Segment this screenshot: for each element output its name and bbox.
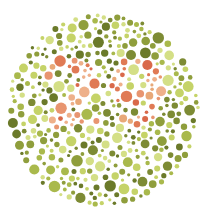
ground-dot xyxy=(121,197,128,204)
ground-dot xyxy=(164,97,170,103)
ground-dot xyxy=(102,23,110,31)
ground-dot xyxy=(86,14,91,19)
ground-dot xyxy=(91,174,98,181)
ground-dot xyxy=(8,108,14,114)
ground-dot xyxy=(118,145,123,150)
ground-dot xyxy=(44,110,48,114)
ground-dot xyxy=(71,191,75,195)
ground-dot xyxy=(136,33,141,38)
ground-dot xyxy=(126,82,134,90)
ground-dot xyxy=(128,64,139,75)
figure-dot xyxy=(137,116,140,119)
ground-dot xyxy=(42,162,46,166)
figure-dot xyxy=(58,116,63,121)
ground-dot xyxy=(160,60,165,65)
ground-dot xyxy=(40,137,47,144)
figure-dot xyxy=(76,83,80,87)
ground-dot xyxy=(192,125,196,129)
figure-dot xyxy=(142,116,148,122)
ground-dot xyxy=(112,22,120,30)
ground-dot xyxy=(114,164,118,168)
ground-dot xyxy=(76,177,80,181)
ground-dot xyxy=(141,37,150,46)
figure-dot xyxy=(68,65,72,69)
figure-dot xyxy=(55,103,66,114)
figure-dot xyxy=(110,83,115,88)
ground-dot xyxy=(41,88,44,91)
ground-dot xyxy=(101,49,108,56)
ground-dot xyxy=(154,153,162,161)
ground-dot xyxy=(155,130,161,136)
figure-dot xyxy=(70,123,73,126)
figure-dot xyxy=(79,61,84,66)
ground-dot xyxy=(106,167,110,171)
figure-dot xyxy=(137,90,145,98)
ground-dot xyxy=(175,164,180,169)
ground-dot xyxy=(19,64,28,73)
ground-dot xyxy=(165,104,169,108)
ground-dot xyxy=(59,146,67,154)
ground-dot xyxy=(121,151,127,157)
ground-dot xyxy=(112,133,122,143)
ground-dot xyxy=(64,79,69,84)
figure-dot xyxy=(72,118,75,121)
ground-dot xyxy=(148,30,152,34)
ground-dot xyxy=(127,140,131,144)
ground-dot xyxy=(67,131,71,135)
ground-dot xyxy=(141,125,145,129)
ground-dot xyxy=(165,40,172,47)
ground-dot xyxy=(194,100,199,105)
ground-dot xyxy=(152,145,158,151)
figure-dot xyxy=(89,79,99,89)
ground-dot xyxy=(158,106,163,111)
ground-dot xyxy=(95,59,102,66)
ground-dot xyxy=(32,93,37,98)
ground-dot xyxy=(39,148,45,154)
ground-dot xyxy=(169,171,173,175)
ground-dot xyxy=(105,180,116,191)
ground-dot xyxy=(66,136,76,146)
ground-dot xyxy=(167,111,175,119)
ground-dot xyxy=(137,173,141,177)
ground-dot xyxy=(108,18,113,23)
ground-dot xyxy=(108,198,111,201)
ground-dot xyxy=(145,161,149,165)
ground-dot xyxy=(127,77,131,81)
ground-dot xyxy=(113,201,117,205)
ground-dot xyxy=(74,46,78,50)
figure-dot xyxy=(54,124,59,129)
ground-dot xyxy=(165,129,169,133)
ground-dot xyxy=(41,53,44,56)
ground-dot xyxy=(156,62,159,65)
ground-dot xyxy=(28,99,35,106)
ground-dot xyxy=(21,122,26,127)
ishihara-plate-dots xyxy=(0,0,207,218)
ground-dot xyxy=(33,63,39,69)
figure-dot xyxy=(115,86,120,91)
ground-dot xyxy=(31,46,34,49)
ground-dot xyxy=(179,58,186,65)
ground-dot xyxy=(38,75,42,79)
ground-dot xyxy=(81,141,88,148)
ground-dot xyxy=(80,133,85,138)
ground-dot xyxy=(124,34,129,39)
ground-dot xyxy=(98,112,102,116)
ground-dot xyxy=(52,49,57,54)
ground-dot xyxy=(133,30,137,34)
ground-dot xyxy=(113,36,117,40)
ground-dot xyxy=(71,108,75,112)
ground-dot xyxy=(46,87,52,93)
ground-dot xyxy=(171,129,175,133)
ground-dot xyxy=(80,168,86,174)
ground-dot xyxy=(20,78,24,82)
ground-dot xyxy=(31,85,35,89)
ground-dot xyxy=(78,40,82,44)
figure-dot xyxy=(156,86,166,96)
ground-dot xyxy=(114,192,119,197)
ground-dot xyxy=(151,52,159,60)
ground-dot xyxy=(14,72,21,79)
ground-dot xyxy=(110,99,113,102)
ground-dot xyxy=(75,147,78,150)
figure-dot xyxy=(45,72,53,80)
ground-dot xyxy=(139,74,144,79)
